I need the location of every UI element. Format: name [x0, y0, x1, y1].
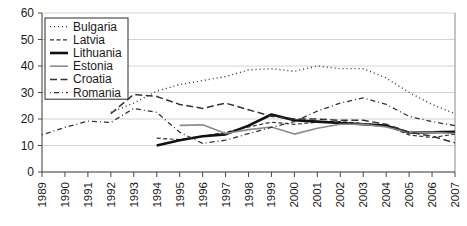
x-tick-label: 1999 — [265, 182, 277, 208]
x-tick-label: 1998 — [243, 182, 255, 208]
x-tick-label: 1990 — [59, 182, 71, 208]
y-tick-label: 50 — [21, 33, 35, 47]
x-tick-label: 2004 — [380, 181, 392, 207]
y-tick-label: 60 — [21, 6, 35, 20]
legend-label-croatia: Croatia — [73, 72, 112, 86]
x-tick-label: 1994 — [151, 181, 163, 207]
x-tick-label: 2000 — [288, 182, 300, 208]
x-tick-label: 1995 — [174, 182, 186, 208]
x-tick-label: 2007 — [449, 182, 461, 208]
x-tick-label: 1997 — [220, 182, 232, 208]
x-tick-label: 2002 — [334, 182, 346, 208]
x-tick-labels: 1989199019911992199319941995199619971998… — [36, 181, 461, 207]
x-tick-label: 2006 — [426, 182, 438, 208]
y-axis: 0102030405060 — [21, 6, 42, 179]
line-chart: 0102030405060 19891990199119921993199419… — [0, 0, 467, 226]
x-tick-label: 2003 — [357, 182, 369, 208]
series-line-bulgaria — [111, 66, 455, 114]
legend-label-bulgaria: Bulgaria — [73, 20, 117, 34]
x-tick-label: 1989 — [36, 182, 48, 208]
legend-label-romania: Romania — [73, 86, 121, 100]
x-axis — [42, 172, 455, 177]
x-tick-label: 1996 — [197, 182, 209, 208]
y-tick-label: 40 — [21, 59, 35, 73]
y-tick-label: 20 — [21, 112, 35, 126]
chart-legend: BulgariaLatviaLithuaniaEstoniaCroatiaRom… — [45, 18, 128, 100]
y-tick-label: 10 — [21, 139, 35, 153]
legend-label-estonia: Estonia — [73, 59, 113, 73]
y-tick-label: 0 — [27, 165, 34, 179]
x-tick-label: 2005 — [403, 182, 415, 208]
y-tick-label: 30 — [21, 86, 35, 100]
x-tick-label: 1992 — [105, 182, 117, 208]
x-tick-label: 2001 — [311, 182, 323, 208]
legend-label-latvia: Latvia — [73, 33, 105, 47]
x-tick-label: 1991 — [82, 182, 94, 208]
series-line-romania — [42, 98, 455, 144]
legend-label-lithuania: Lithuania — [73, 46, 122, 60]
x-tick-label: 1993 — [128, 182, 140, 208]
chart-canvas: 0102030405060 19891990199119921993199419… — [0, 0, 467, 226]
